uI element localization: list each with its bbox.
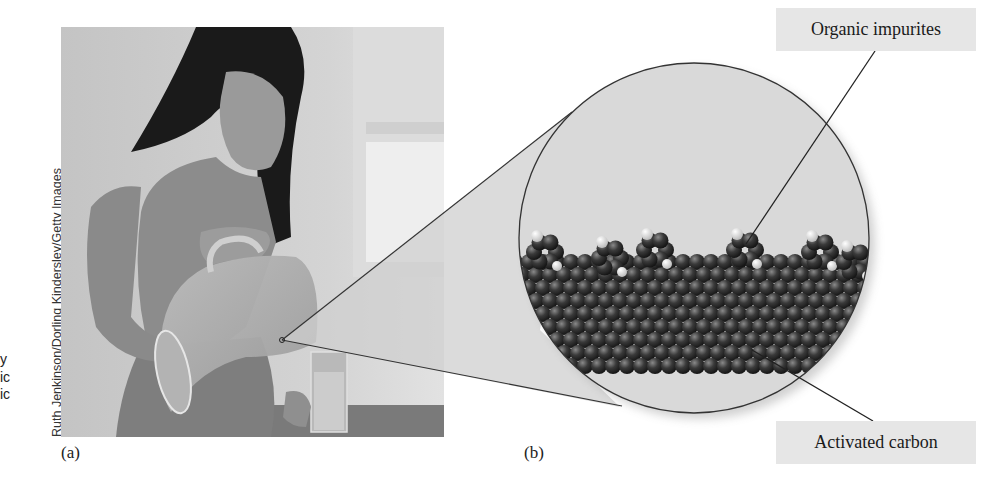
magnification-diagram	[0, 0, 1008, 484]
callout-organic-impurities: Organic impurites	[776, 8, 976, 51]
callout-activated-carbon: Activated carbon	[776, 421, 976, 464]
